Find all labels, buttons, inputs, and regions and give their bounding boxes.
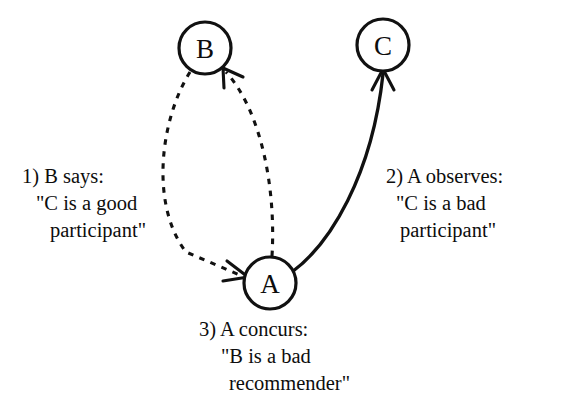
caption-a-observes-line-1: 2) A observes: [386, 163, 503, 190]
node-c[interactable]: C [357, 19, 409, 71]
edge-a-to-c [292, 69, 394, 272]
caption-a-observes-line-3: participant" [386, 217, 503, 244]
edge-a-to-c-path [292, 74, 383, 272]
caption-b-says-line-3: participant" [22, 217, 146, 244]
edge-a-to-b [223, 68, 273, 256]
caption-b-says-line-1: 1) B says: [22, 163, 146, 190]
edge-b-to-a [163, 72, 248, 281]
caption-a-observes: 2) A observes: "C is a bad participant" [386, 163, 503, 244]
edge-a-to-b-path [226, 72, 273, 256]
node-b[interactable]: B [179, 22, 231, 74]
node-a[interactable]: A [244, 257, 296, 309]
caption-b-says-line-2: "C is a good [22, 190, 146, 217]
caption-a-concurs-line-2: "B is a bad [199, 343, 350, 370]
caption-a-concurs-line-3: recommender" [199, 370, 350, 397]
node-a-label: A [260, 269, 280, 299]
node-b-label: B [196, 34, 214, 64]
edge-b-to-a-path [163, 72, 242, 276]
node-c-label: C [374, 31, 392, 61]
edge-a-to-b-arrowhead [223, 68, 243, 88]
caption-a-observes-line-2: "C is a bad [386, 190, 503, 217]
diagram-root: B C A 1) B says: "C is a good participan… [0, 0, 561, 410]
caption-a-concurs-line-1: 3) A concurs: [199, 316, 350, 343]
caption-b-says: 1) B says: "C is a good participant" [22, 163, 146, 244]
caption-a-concurs: 3) A concurs: "B is a bad recommender" [199, 316, 350, 397]
